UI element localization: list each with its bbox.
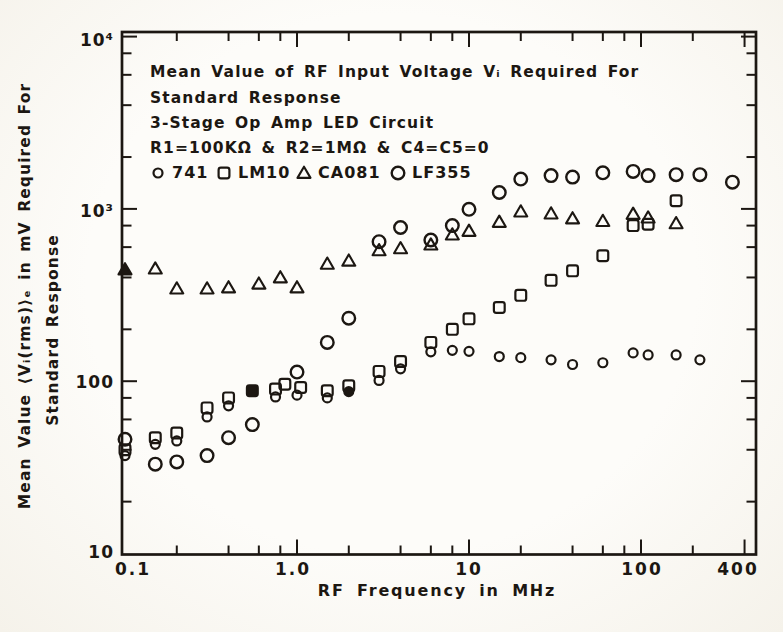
y-tick-label-100: 100 bbox=[76, 372, 115, 392]
x-tick-label-400: 400 bbox=[717, 559, 759, 579]
data-point-circle-small bbox=[151, 440, 160, 449]
data-point-circle-large bbox=[493, 186, 506, 199]
data-point-square bbox=[671, 195, 682, 206]
data-point-circle-large bbox=[545, 169, 558, 182]
data-point-circle-small bbox=[465, 347, 474, 356]
data-point-circle-large bbox=[627, 165, 640, 178]
series-CA081 bbox=[119, 205, 683, 293]
legend-item-lm10: LM10 bbox=[214, 162, 290, 182]
legend-marker-svg bbox=[294, 162, 314, 182]
data-point-circle-small bbox=[323, 393, 332, 402]
legend-marker-svg bbox=[214, 162, 234, 182]
y-tick-label-10e4: 10⁴ bbox=[80, 30, 114, 50]
square-marker-icon bbox=[214, 162, 234, 182]
plot-canvas bbox=[0, 0, 783, 632]
data-point-triangle bbox=[342, 254, 355, 265]
data-point-circle-small bbox=[695, 355, 704, 364]
y-tick-label-10: 10 bbox=[88, 542, 114, 562]
data-point-circle-large bbox=[149, 458, 162, 471]
circle-large-marker-icon bbox=[388, 162, 408, 182]
data-point-circle-large bbox=[321, 336, 334, 349]
data-point-circle-large bbox=[597, 167, 610, 180]
data-point-square bbox=[515, 290, 526, 301]
data-point-circle-large bbox=[342, 312, 355, 325]
data-point-triangle bbox=[463, 225, 476, 236]
legend-label-741: 741 bbox=[172, 163, 208, 182]
data-point-triangle bbox=[627, 208, 640, 219]
legend-item-ca081: CA081 bbox=[294, 162, 381, 182]
data-point-circle-large bbox=[392, 167, 405, 180]
data-point-square bbox=[546, 275, 557, 286]
data-point-triangle bbox=[274, 271, 287, 282]
data-point-triangle bbox=[596, 215, 609, 226]
data-point-circle-large bbox=[670, 168, 683, 181]
data-point-square bbox=[425, 337, 436, 348]
data-point-circle-large bbox=[694, 168, 707, 181]
chart-title-line-1: Mean Value of RF Input Voltage Vᵢ Requir… bbox=[150, 63, 639, 81]
legend-item-741: 741 bbox=[148, 162, 208, 182]
data-point-circle-large bbox=[291, 366, 304, 379]
legend-item-lf355: LF355 bbox=[388, 162, 472, 182]
data-point-circle-large bbox=[726, 176, 739, 189]
legend-label-lm10: LM10 bbox=[238, 163, 290, 182]
circle-small-marker-icon bbox=[148, 162, 168, 182]
data-point-triangle bbox=[170, 282, 183, 293]
data-point-circle-small bbox=[396, 364, 405, 373]
chart-title-line-3: 3-Stage Op Amp LED Circuit bbox=[150, 114, 434, 132]
x-tick-label-0p1: 0.1 bbox=[115, 559, 151, 579]
legend-label-lf355: LF355 bbox=[412, 163, 472, 182]
data-point-circle-large bbox=[170, 456, 183, 469]
data-point-circle-large bbox=[222, 431, 235, 444]
data-point-square bbox=[464, 313, 475, 324]
data-point-square bbox=[219, 168, 230, 179]
data-point-circle-small bbox=[448, 346, 457, 355]
plot-frame bbox=[122, 32, 756, 555]
x-axis-title: RF Frequency in MHz bbox=[318, 581, 556, 600]
legend-marker-svg bbox=[148, 162, 168, 182]
triangle-marker-icon bbox=[294, 162, 314, 182]
data-point-square bbox=[628, 220, 639, 231]
data-point-triangle bbox=[252, 277, 265, 288]
data-point-circle-large bbox=[463, 203, 476, 216]
data-point-triangle bbox=[514, 205, 527, 216]
x-tick-label-10: 10 bbox=[455, 559, 483, 579]
data-point-circle-small bbox=[154, 169, 163, 178]
data-point-square bbox=[567, 265, 578, 276]
data-point-circle-small bbox=[516, 353, 525, 362]
data-point-triangle bbox=[222, 281, 235, 292]
data-point-circle-small bbox=[598, 358, 607, 367]
series-LF355 bbox=[119, 165, 739, 470]
data-point-triangle bbox=[670, 217, 683, 228]
data-point-circle-small bbox=[629, 348, 638, 357]
data-point-triangle bbox=[119, 263, 132, 274]
data-point-circle-large bbox=[201, 449, 214, 462]
chart-title-line-4: R1=100KΩ & R2=1MΩ & C4=C5=0 bbox=[150, 139, 490, 157]
data-point-triangle bbox=[298, 167, 311, 178]
scanned-chart-figure: Mean Value of RF Input Voltage Vᵢ Requir… bbox=[0, 0, 783, 632]
data-point-circle-small bbox=[547, 355, 556, 364]
data-point-square bbox=[247, 385, 258, 396]
data-point-triangle bbox=[394, 242, 407, 253]
data-point-square bbox=[494, 302, 505, 313]
data-point-triangle bbox=[545, 207, 558, 218]
x-tick-label-100: 100 bbox=[621, 559, 663, 579]
y-axis-title-line-1: Mean Value ⟨Vᵢ(rms)⟩ₑ in mV Required For bbox=[16, 83, 34, 509]
data-point-circle-large bbox=[642, 169, 655, 182]
data-point-triangle bbox=[201, 282, 214, 293]
data-point-circle-small bbox=[644, 350, 653, 359]
data-point-triangle bbox=[642, 211, 655, 222]
chart-title-line-2: Standard Response bbox=[150, 89, 342, 107]
data-point-square bbox=[597, 250, 608, 261]
data-point-circle-large bbox=[373, 235, 386, 248]
data-point-circle-large bbox=[394, 221, 407, 234]
data-point-triangle bbox=[149, 262, 162, 273]
data-point-circle-large bbox=[246, 418, 259, 431]
data-point-triangle bbox=[291, 281, 304, 292]
data-point-triangle bbox=[566, 212, 579, 223]
data-point-circle-large bbox=[566, 171, 579, 184]
x-tick-label-1p0: 1.0 bbox=[275, 559, 311, 579]
legend-marker-svg bbox=[388, 162, 408, 182]
data-point-triangle bbox=[493, 216, 506, 227]
legend-label-ca081: CA081 bbox=[318, 163, 381, 182]
data-point-square bbox=[643, 219, 654, 230]
